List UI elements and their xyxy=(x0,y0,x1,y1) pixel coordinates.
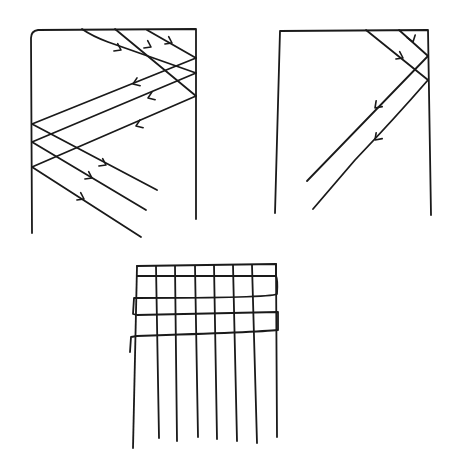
diagonal-line xyxy=(307,56,428,181)
diagonal-line xyxy=(366,30,428,80)
warp-thread xyxy=(252,265,257,443)
right-frame-panel xyxy=(275,30,431,215)
warp-thread xyxy=(233,265,237,441)
weaving-grid-panel xyxy=(130,264,278,448)
diagonal-line xyxy=(313,80,428,209)
direction-arrow-icon xyxy=(407,35,415,42)
warp-thread xyxy=(175,266,177,441)
weft-thread xyxy=(130,264,278,352)
direction-arrow-icon xyxy=(144,41,151,48)
diagonal-line xyxy=(147,30,196,58)
diagonal-line xyxy=(82,29,196,73)
left-frame-panel xyxy=(31,29,196,237)
diagonal-line xyxy=(32,58,196,124)
frame-outline xyxy=(275,30,431,215)
diagonal-line xyxy=(32,167,141,237)
warp-thread xyxy=(156,266,159,438)
diagram-canvas xyxy=(0,0,452,463)
warp-thread xyxy=(195,266,198,437)
warp-thread xyxy=(133,266,137,448)
diagram-svg xyxy=(0,0,452,463)
diagonal-line xyxy=(399,30,428,56)
warp-thread xyxy=(214,265,217,439)
